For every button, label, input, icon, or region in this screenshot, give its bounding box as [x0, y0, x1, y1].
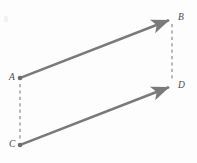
vector-AB-shaft	[21, 21, 168, 78]
vertex-dot-A	[18, 76, 23, 81]
vertex-dot-C	[18, 143, 23, 148]
vector-diagram-canvas	[0, 0, 197, 163]
point-label-b: B	[178, 13, 184, 23]
point-label-d: D	[178, 81, 185, 91]
point-label-a: A	[9, 73, 15, 83]
point-label-c: C	[9, 140, 15, 150]
vector-diagram: A B C D	[0, 0, 197, 163]
vector-CD-shaft	[21, 88, 168, 145]
